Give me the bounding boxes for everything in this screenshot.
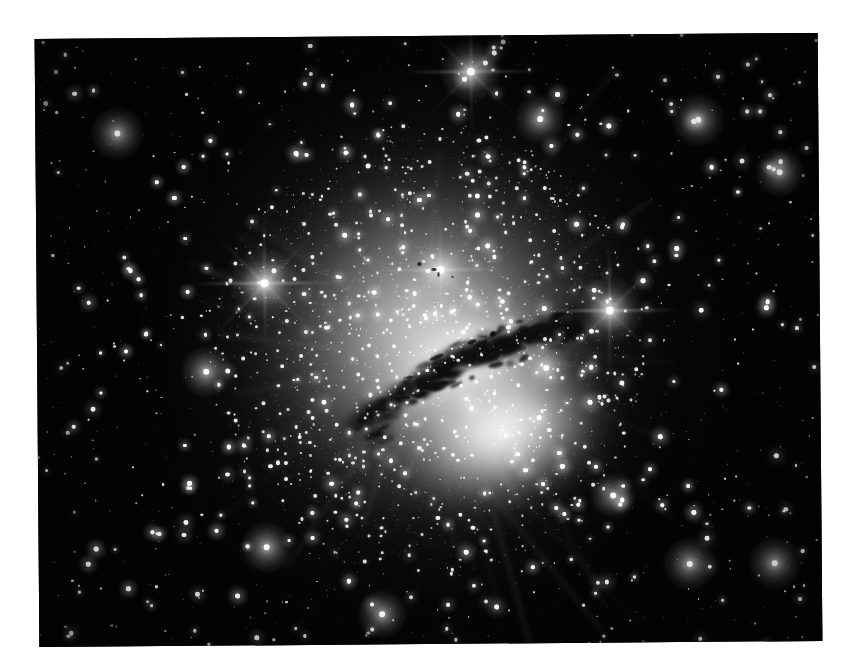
star [617,518,618,519]
star [787,637,789,639]
star [39,365,40,366]
star [135,58,137,60]
star [459,646,462,647]
star [174,152,176,154]
star [42,41,45,44]
star [570,558,573,561]
star [587,165,588,166]
star [721,599,724,602]
star [189,487,192,490]
star [821,542,822,543]
star [201,514,203,516]
star [144,333,147,336]
star [50,102,51,103]
star [747,283,748,284]
bright-star-glow [672,93,725,146]
star [589,642,591,644]
star [810,218,812,220]
star [460,104,461,105]
star [584,119,586,121]
star [74,67,76,69]
star [744,147,745,148]
star [218,477,220,479]
star [791,131,792,132]
star [146,600,149,603]
star [334,589,335,590]
star [150,604,154,608]
star [161,397,162,398]
star [39,634,40,635]
star [189,408,191,410]
star [193,629,197,633]
star [802,420,804,422]
star [214,528,219,533]
star [347,579,351,583]
star [585,124,586,125]
star [815,539,817,541]
star [201,514,203,516]
star [692,340,693,341]
star [219,514,222,517]
star [357,646,358,647]
star [56,171,59,174]
star [39,328,40,329]
star [159,511,160,512]
star [754,58,757,61]
star [746,63,750,67]
star [705,64,706,65]
star [771,38,772,39]
star [94,546,99,551]
star [627,110,630,113]
star [233,497,234,498]
star [68,262,70,264]
star [555,92,560,97]
star [191,154,193,156]
star [214,528,219,533]
star [218,120,220,122]
star [145,444,146,445]
star [759,450,760,451]
star [69,227,71,229]
star [52,407,53,408]
star [738,623,739,624]
star [58,402,59,403]
star [663,617,664,618]
star [330,81,331,82]
star [661,414,662,415]
star [174,152,176,154]
star [268,123,271,126]
star [747,515,749,517]
star [63,53,67,57]
star [78,355,80,357]
star [652,256,653,257]
star [789,201,792,204]
star [606,123,611,128]
star [723,319,724,320]
star [724,478,726,480]
star [408,64,410,66]
star [673,321,674,322]
star [584,119,586,121]
star [643,572,645,574]
star [120,600,121,601]
star [579,107,581,109]
star [326,590,327,591]
star [675,254,678,257]
star [368,636,369,637]
star [146,377,147,378]
star [737,362,739,364]
star [115,375,116,376]
star [276,623,277,624]
bright-star-glow [411,241,469,299]
star [162,483,164,485]
star [227,162,229,164]
star [516,582,517,583]
star [804,71,806,73]
star [368,636,369,637]
star [100,587,102,589]
star [187,481,192,486]
star [194,434,196,436]
star [469,603,470,604]
star [743,352,744,353]
star [583,43,584,44]
